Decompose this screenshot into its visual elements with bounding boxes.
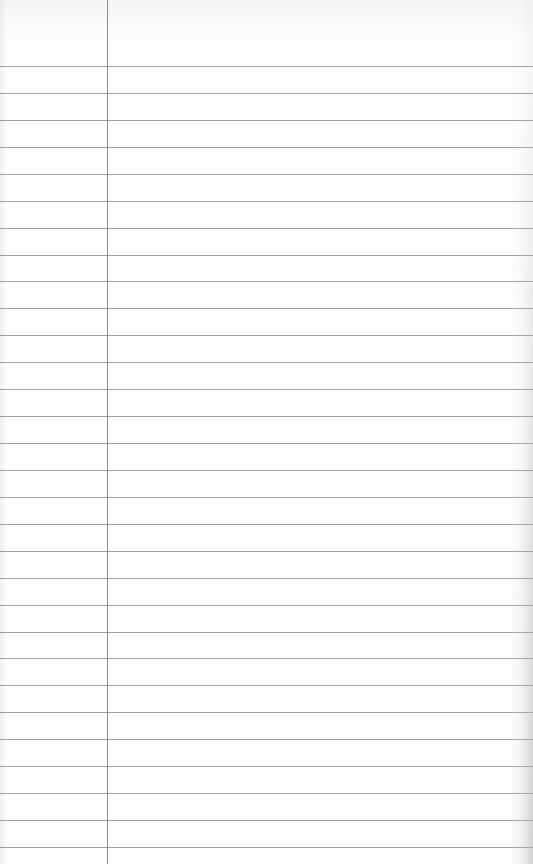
- right-edge-shadow: [509, 0, 533, 864]
- ruled-line: [0, 416, 533, 417]
- ruled-line: [0, 551, 533, 552]
- ruled-line: [0, 255, 533, 256]
- ruled-line: [0, 632, 533, 633]
- ruled-line: [0, 658, 533, 659]
- lined-paper: [0, 0, 533, 864]
- ruled-line: [0, 766, 533, 767]
- ruled-line: [0, 497, 533, 498]
- ruled-line: [0, 739, 533, 740]
- ruled-line: [0, 847, 533, 848]
- ruled-line: [0, 685, 533, 686]
- ruled-line: [0, 578, 533, 579]
- ruled-line: [0, 335, 533, 336]
- ruled-line: [0, 281, 533, 282]
- ruled-line: [0, 389, 533, 390]
- ruled-line: [0, 605, 533, 606]
- top-shading: [0, 0, 533, 40]
- ruled-line: [0, 308, 533, 309]
- ruled-line: [0, 93, 533, 94]
- ruled-line: [0, 174, 533, 175]
- ruled-line: [0, 793, 533, 794]
- ruled-line: [0, 820, 533, 821]
- ruled-line: [0, 470, 533, 471]
- ruled-line: [0, 66, 533, 67]
- ruled-line: [0, 362, 533, 363]
- ruled-line: [0, 524, 533, 525]
- ruled-line: [0, 147, 533, 148]
- ruled-line: [0, 201, 533, 202]
- ruled-line: [0, 228, 533, 229]
- left-edge-shading: [0, 0, 6, 864]
- ruled-line: [0, 120, 533, 121]
- ruled-line: [0, 443, 533, 444]
- ruled-line: [0, 712, 533, 713]
- margin-line: [107, 0, 108, 864]
